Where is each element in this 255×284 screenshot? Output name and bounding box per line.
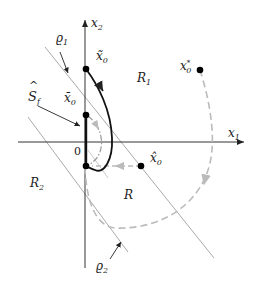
dashdot-arrow-icon (95, 123, 98, 128)
phase-diagram: x2 x1 0 ϱ1 ϱ2 R1 R2 R Sf ^ x*0 x̃0 x̄0 x… (0, 0, 255, 284)
x0-bar-label: x̄0 (64, 91, 76, 107)
sf-pointer (38, 106, 80, 126)
sf-hat-accent: ^ (29, 79, 38, 92)
point-x0-tilde (83, 66, 90, 73)
x0-star-label: x*0 (180, 59, 191, 75)
x1-axis-label: x1 (228, 126, 240, 142)
region-r1-label: R1 (136, 71, 151, 87)
x0-hat-label: x̂0 (150, 151, 162, 167)
rho1-label: ϱ1 (56, 31, 68, 47)
region-r2-label: R2 (29, 176, 44, 192)
point-bottom (83, 163, 90, 170)
rho2-label: ϱ2 (96, 259, 108, 275)
point-x0-star (197, 67, 204, 74)
point-x0-hat (138, 163, 145, 170)
x2-axis-label: x2 (91, 16, 103, 32)
point-x0-bar (83, 112, 90, 119)
solid-arrow-icon (100, 86, 103, 91)
dashed-trajectory (85, 70, 212, 228)
x0-tilde-label: x̃0 (96, 49, 108, 65)
origin-label: 0 (74, 145, 81, 158)
dashed-arrow-icon (204, 175, 206, 184)
boundary-line-rho1 (45, 47, 214, 258)
rho2-pointer (110, 242, 121, 259)
rho1-pointer (60, 52, 68, 73)
region-r-label: R (123, 188, 133, 202)
